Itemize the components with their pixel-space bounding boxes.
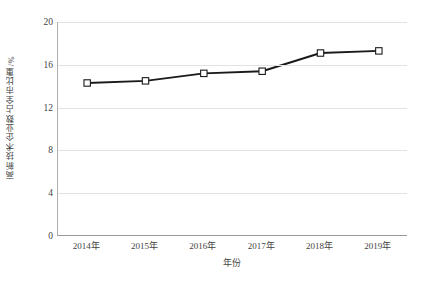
data-point-marker: [84, 80, 90, 86]
y-tick-label: 8: [7, 145, 53, 155]
data-series-layer: [58, 22, 408, 236]
gridline: [58, 65, 407, 66]
line-chart: 高新技术企业数占全市比重/% 048121620 2014年2015年2016年…: [0, 0, 427, 283]
plot-area: [57, 22, 407, 236]
y-axis-tick-labels: 048121620: [0, 22, 53, 236]
x-tick-label: 2019年: [343, 240, 413, 252]
gridline: [58, 22, 407, 23]
x-axis-tick-labels: 2014年2015年2016年2017年2018年2019年: [57, 240, 407, 254]
data-line: [87, 51, 379, 83]
gridline: [58, 150, 407, 151]
y-tick-label: 12: [7, 103, 53, 113]
data-point-marker: [376, 48, 382, 54]
data-point-marker: [259, 68, 265, 74]
data-point-marker: [142, 78, 148, 84]
y-tick-label: 0: [7, 231, 53, 241]
y-tick-label: 20: [7, 17, 53, 27]
y-tick-label: 16: [7, 60, 53, 70]
data-point-marker: [201, 70, 207, 76]
data-point-marker: [317, 50, 323, 56]
gridline: [58, 108, 407, 109]
x-axis-title: 年份: [57, 256, 407, 269]
gridline: [58, 193, 407, 194]
y-tick-label: 4: [7, 188, 53, 198]
